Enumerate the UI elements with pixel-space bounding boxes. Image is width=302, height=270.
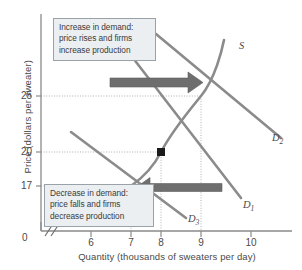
decrease-callout-line-2: price falls and firms: [50, 199, 148, 210]
x-tick-7: 7: [122, 238, 140, 248]
demand-curve-D2-label: D2: [272, 132, 283, 146]
increase-in-demand-callout: Increase in demand: price rises and firm…: [53, 18, 156, 61]
y-tick-20: 20: [6, 147, 32, 157]
supply-demand-figure: Price (dollars per sweater) Quantity (th…: [0, 0, 302, 270]
increase-callout-line-2: price rises and firms: [59, 33, 150, 44]
origin-label: 0: [22, 233, 28, 243]
demand-curve-D1-label: D1: [243, 199, 254, 213]
initial-equilibrium-marker: [157, 148, 165, 156]
decrease-in-demand-callout: Decrease in demand: price falls and firm…: [44, 184, 154, 227]
demand-curve-D3-label-base: D: [188, 213, 196, 224]
x-axis-title: Quantity (thousands of sweaters per day): [38, 252, 296, 262]
demand-curve-D1-label-base: D: [243, 199, 251, 210]
supply-curve-label: S: [239, 40, 244, 51]
y-tick-17: 17: [6, 181, 32, 191]
x-tick-8: 8: [152, 238, 170, 248]
x-axis-ticks: [91, 231, 251, 237]
increase-callout-line-3: increase production: [59, 45, 150, 56]
demand-curve-D1-label-sub: 1: [251, 204, 255, 213]
x-tick-9: 9: [192, 238, 210, 248]
demand-curve-D2-label-sub: 2: [280, 137, 284, 146]
demand-curve-D3-label-sub: 3: [196, 218, 200, 227]
supply-curve-S: [131, 40, 224, 186]
x-tick-10: 10: [242, 238, 260, 248]
increase-callout-line-1: Increase in demand:: [59, 22, 150, 33]
x-tick-6: 6: [82, 238, 100, 248]
decrease-callout-line-1: Decrease in demand:: [50, 188, 148, 199]
y-tick-25: 25: [6, 91, 32, 101]
y-axis-ticks: [36, 96, 41, 186]
demand-curve-D2-label-base: D: [272, 132, 280, 143]
supply-curve-label-text: S: [239, 40, 244, 51]
demand-curve-D3-label: D3: [188, 213, 199, 227]
decrease-callout-line-3: decrease production: [50, 211, 148, 222]
y-axis-title: Price (dollars per sweater): [23, 49, 33, 185]
